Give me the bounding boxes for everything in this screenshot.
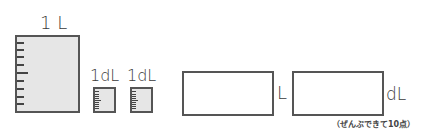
small-container-label-2: 1dL [127,68,156,84]
tick-mark [132,108,136,109]
tick-mark [17,56,24,58]
tick-mark [17,80,24,82]
tick-mark [95,108,99,109]
small-container-2 [130,87,153,113]
tick-mark [17,42,24,44]
tick-mark [95,94,99,95]
tick-mark [95,102,99,103]
tick-mark [132,96,136,97]
tick-mark [17,49,24,51]
small-container-1 [93,87,116,113]
tick-mark [95,100,101,101]
tick-mark [95,98,99,99]
tick-mark [95,96,99,97]
small-container-label-1: 1dL [90,68,119,84]
tick-mark [132,91,136,92]
tick-mark [132,94,136,95]
tick-mark [132,98,136,99]
scoring-note: （ぜんぶできて10点） [332,121,415,129]
tick-mark [17,72,28,74]
tick-mark [95,91,99,92]
unit-label-liters: L [277,84,287,102]
tick-mark [17,103,24,105]
large-container-label: 1 L [40,14,67,32]
tick-mark [95,106,99,107]
tick-mark [132,104,136,105]
answer-box-liters[interactable] [182,71,274,116]
tick-mark [17,96,24,98]
tick-mark [17,64,24,66]
tick-mark [17,88,24,90]
large-container [15,35,80,113]
tick-mark [132,106,136,107]
tick-mark [132,102,136,103]
unit-label-deciliters: dL [386,86,406,103]
tick-mark [132,100,138,101]
tick-mark [95,104,99,105]
answer-box-deciliters[interactable] [292,71,384,116]
